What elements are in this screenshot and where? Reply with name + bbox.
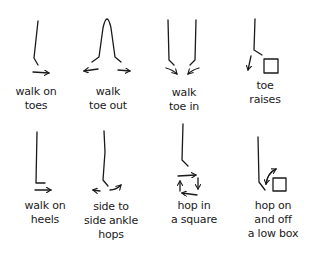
label-line: side ankle bbox=[71, 214, 151, 228]
toe-raises-icon bbox=[248, 19, 278, 73]
label-line: walk on bbox=[0, 85, 76, 99]
hop-in-a-square-icon bbox=[178, 124, 198, 195]
label-line: toes bbox=[0, 99, 76, 113]
label-walk-toe-in: walk toe in bbox=[144, 86, 224, 114]
walk-on-toes-icon bbox=[33, 21, 49, 73]
label-walk-on-toes: walk on toes bbox=[0, 85, 76, 113]
label-line: walk bbox=[68, 85, 148, 99]
walk-toe-in-icon bbox=[166, 20, 199, 74]
label-hop-in-a-square: hop in a square bbox=[154, 199, 234, 227]
hop-on-and-off-box-icon bbox=[258, 137, 286, 191]
label-line: side to bbox=[71, 200, 151, 214]
label-line: raises bbox=[225, 93, 305, 107]
label-line: toe out bbox=[68, 99, 148, 113]
label-line: hops bbox=[71, 228, 151, 242]
label-line: and off bbox=[233, 213, 311, 227]
side-to-side-ankle-hops-icon bbox=[93, 131, 121, 191]
label-line: hop in bbox=[154, 199, 234, 213]
label-line: toe bbox=[225, 79, 305, 93]
label-line: a square bbox=[154, 213, 234, 227]
walk-on-heels-icon bbox=[35, 132, 51, 190]
label-line: walk bbox=[144, 86, 224, 100]
label-toe-raises: toe raises bbox=[225, 79, 305, 107]
walk-toe-out-icon bbox=[84, 19, 130, 71]
label-hop-on-and-off-box: hop on and off a low box bbox=[233, 199, 311, 241]
label-line: a low box bbox=[233, 227, 311, 241]
label-side-to-side-ankle-hops: side to side ankle hops bbox=[71, 200, 151, 242]
label-line: hop on bbox=[233, 199, 311, 213]
label-line: toe in bbox=[144, 100, 224, 114]
label-walk-toe-out: walk toe out bbox=[68, 85, 148, 113]
